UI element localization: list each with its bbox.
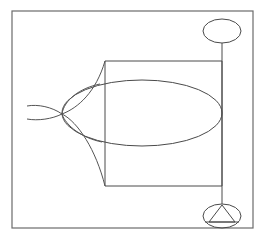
- diagram-svg: [0, 0, 264, 237]
- background-fill: [0, 0, 264, 237]
- diagram-canvas: [0, 0, 264, 237]
